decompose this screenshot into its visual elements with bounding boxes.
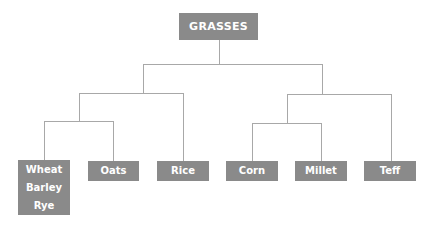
leaf-label: Rye	[34, 197, 55, 215]
connector	[391, 94, 392, 161]
leaf-node-teff: Teff	[364, 161, 416, 181]
leaf-label: Wheat	[26, 161, 62, 179]
connector	[183, 93, 184, 161]
connector	[79, 93, 184, 94]
leaf-label: Rice	[171, 162, 195, 180]
connector	[143, 64, 323, 65]
root-label: GRASSES	[189, 18, 248, 36]
leaf-label: Teff	[380, 162, 400, 180]
connector	[113, 121, 114, 161]
root-node-grasses: GRASSES	[179, 13, 258, 40]
connector	[321, 123, 322, 161]
leaf-node-oats: Oats	[88, 161, 139, 181]
connector	[322, 64, 323, 94]
leaf-node-corn: Corn	[226, 161, 278, 181]
connector	[252, 123, 322, 124]
connector	[252, 123, 253, 161]
connector	[219, 40, 220, 64]
leaf-label: Barley	[26, 179, 62, 197]
connector	[287, 94, 392, 95]
leaf-label: Millet	[305, 162, 337, 180]
leaf-node-wheat-barley-rye: Wheat Barley Rye	[18, 160, 70, 215]
connector	[143, 64, 144, 94]
connector	[79, 93, 80, 121]
leaf-label: Oats	[101, 162, 127, 180]
connector	[44, 121, 45, 160]
leaf-node-millet: Millet	[295, 161, 347, 181]
leaf-node-rice: Rice	[157, 161, 209, 181]
connector	[44, 121, 114, 122]
connector	[287, 94, 288, 123]
leaf-label: Corn	[239, 162, 265, 180]
